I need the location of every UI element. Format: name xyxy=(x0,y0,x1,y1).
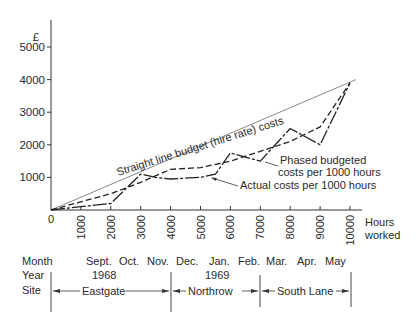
month-apr: Apr. xyxy=(297,255,317,267)
northrow-arrowhead-right xyxy=(251,289,258,293)
eastgate-arrowhead-right xyxy=(162,289,169,293)
actual-leader-arrowhead xyxy=(211,178,217,182)
timeline-year-label: Year xyxy=(22,269,45,281)
x-tick-label: 9000 xyxy=(314,215,326,239)
axes: 1000200030004000500001000200030004000500… xyxy=(19,20,362,246)
y-tick-label: 2000 xyxy=(19,139,45,151)
month-mar: Mar. xyxy=(266,255,287,267)
x-tick-label: 10000 xyxy=(344,215,356,246)
x-tick-label: 8000 xyxy=(284,215,296,239)
eastgate-arrowhead-left xyxy=(53,289,60,293)
northrow-arrowhead-left xyxy=(173,289,180,293)
x-tick-label: 2000 xyxy=(105,215,117,239)
x-axis-label-line1: Hours xyxy=(365,216,395,228)
y-axis-unit: £ xyxy=(33,31,40,43)
x-tick-label: 6000 xyxy=(224,215,236,239)
month-oct: Oct. xyxy=(119,255,139,267)
month-jan: Jan. xyxy=(209,255,230,267)
month-sept: Sept. xyxy=(86,255,112,267)
x-tick-label: 4000 xyxy=(165,215,177,239)
y-tick-label: 3000 xyxy=(19,106,45,118)
month-dec: Dec. xyxy=(176,255,199,267)
x-tick-label: 0 xyxy=(48,213,54,225)
month-feb: Feb. xyxy=(238,255,260,267)
x-tick-label: 5000 xyxy=(195,215,207,239)
phased-leader-line xyxy=(265,162,278,166)
southlane-arrowhead-right xyxy=(342,289,349,293)
month-may: May xyxy=(325,255,346,267)
year-1968: 1968 xyxy=(92,269,116,281)
x-axis-label-line2: worked xyxy=(364,229,400,241)
chart: 1000200030004000500001000200030004000500… xyxy=(0,0,418,328)
month-nov: Nov. xyxy=(147,255,169,267)
timeline-month-label: Month xyxy=(22,255,53,267)
southlane-arrowhead-left xyxy=(262,289,269,293)
x-tick-label: 7000 xyxy=(254,215,266,239)
phased-annotation-line1: Phased budgeted xyxy=(280,154,366,166)
year-1969: 1969 xyxy=(205,269,229,281)
site-south-lane: South Lane xyxy=(277,285,333,297)
site-northrow: Northrow xyxy=(188,285,233,297)
y-tick-label: 4000 xyxy=(19,74,45,86)
timeline: Month Year Site Sept. Oct. Nov. Dec. Jan… xyxy=(22,255,351,312)
straight-line-annotation: Straight line budget (hire rate) costs xyxy=(115,114,285,178)
phased-annotation-line2: costs per 1000 hours xyxy=(278,166,381,178)
timeline-site-label: Site xyxy=(22,284,41,296)
x-tick-label: 1000 xyxy=(75,215,87,239)
site-eastgate: Eastgate xyxy=(82,285,125,297)
actual-annotation: Actual costs per 1000 hours xyxy=(240,179,377,191)
x-tick-label: 3000 xyxy=(135,215,147,239)
y-tick-label: 1000 xyxy=(19,171,45,183)
